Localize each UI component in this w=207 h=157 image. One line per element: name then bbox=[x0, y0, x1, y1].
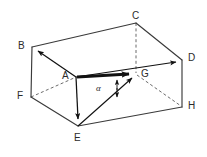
vertex-label-A: A bbox=[62, 71, 69, 81]
edge-G-H bbox=[137, 75, 181, 106]
edge-B-F bbox=[31, 47, 32, 97]
edge-C-D bbox=[136, 23, 182, 60]
box-diagram-svg bbox=[0, 0, 207, 157]
vertex-label-G: G bbox=[141, 69, 149, 79]
vertex-label-H: H bbox=[188, 101, 195, 111]
vector-E-G bbox=[78, 78, 132, 126]
vector-A-B bbox=[38, 51, 76, 77]
vertex-label-B: B bbox=[18, 41, 25, 51]
edge-B-C bbox=[32, 23, 136, 47]
edge-E-H bbox=[78, 107, 182, 126]
edge-F-E bbox=[31, 97, 78, 126]
vertex-label-E: E bbox=[74, 133, 81, 143]
vertex-label-F: F bbox=[17, 91, 23, 101]
figure-canvas: A B C D E F G H α bbox=[0, 0, 207, 157]
vertex-label-C: C bbox=[132, 11, 139, 21]
vector-A-G bbox=[77, 74, 129, 77]
vertex-label-D: D bbox=[188, 53, 195, 63]
vector-A-E bbox=[76, 77, 78, 119]
angle-label-alpha: α bbox=[96, 84, 101, 93]
